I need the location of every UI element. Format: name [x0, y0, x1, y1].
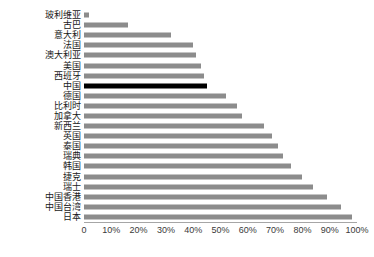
bar-row: 英国: [84, 131, 357, 141]
category-label: 瑞士: [63, 182, 81, 191]
bar-row: 瑞典: [84, 151, 357, 161]
category-label: 西班牙: [54, 71, 81, 80]
bar-row: 日本: [84, 212, 357, 222]
bar-row: 玻利维亚: [84, 10, 357, 20]
bar: [84, 103, 237, 108]
category-label: 瑞典: [63, 152, 81, 161]
bar: [84, 113, 242, 118]
bar-row: 瑞士: [84, 182, 357, 192]
bar-row: 捷克: [84, 172, 357, 182]
bar: [84, 13, 89, 18]
bar-row: 德国: [84, 91, 357, 101]
bar: [84, 33, 171, 38]
bar: [84, 154, 283, 159]
x-tick-label: 80%: [293, 224, 311, 236]
bar: [84, 174, 302, 179]
plot-area: 玻利维亚古巴意大利法国澳大利亚美国西班牙中国德国比利时加拿大新西兰英国泰国瑞典韩…: [84, 10, 357, 222]
x-tick-label: 20%: [130, 224, 148, 236]
category-label: 中国香港: [45, 192, 81, 201]
bar: [84, 73, 204, 78]
category-label: 日本: [63, 212, 81, 221]
category-label: 韩国: [63, 162, 81, 171]
x-tick-label: 60%: [239, 224, 257, 236]
bar-row: 意大利: [84, 30, 357, 40]
bar: [84, 83, 207, 88]
bar-row: 中国香港: [84, 192, 357, 202]
category-label: 法国: [63, 41, 81, 50]
x-axis-line: [84, 222, 357, 223]
category-label: 比利时: [54, 101, 81, 110]
category-label: 玻利维亚: [45, 11, 81, 20]
category-label: 意大利: [54, 31, 81, 40]
bar-row: 美国: [84, 60, 357, 70]
category-label: 美国: [63, 61, 81, 70]
bar-row: 加拿大: [84, 111, 357, 121]
category-label: 捷克: [63, 172, 81, 181]
x-tick-label: 90%: [321, 224, 339, 236]
bar-row: 古巴: [84, 20, 357, 30]
bar-row: 中国: [84, 81, 357, 91]
bar-row: 西班牙: [84, 71, 357, 81]
bar-row: 泰国: [84, 141, 357, 151]
bar: [84, 134, 272, 139]
bar: [84, 124, 264, 129]
bar-chart: 玻利维亚古巴意大利法国澳大利亚美国西班牙中国德国比利时加拿大新西兰英国泰国瑞典韩…: [0, 0, 374, 257]
bar: [84, 204, 341, 209]
x-tick-label: 100%: [345, 224, 368, 236]
bar-row: 法国: [84, 40, 357, 50]
bar-row: 新西兰: [84, 121, 357, 131]
bar: [84, 214, 352, 219]
category-label: 英国: [63, 132, 81, 141]
bar-row: 韩国: [84, 161, 357, 171]
category-label: 中国: [63, 81, 81, 90]
x-axis-tick-labels: 010%20%30%40%50%60%70%80%90%100%: [0, 224, 374, 240]
category-label: 加拿大: [54, 111, 81, 120]
bar-row: 澳大利亚: [84, 50, 357, 60]
x-tick-label: 50%: [211, 224, 229, 236]
bar: [84, 164, 291, 169]
bar: [84, 23, 128, 28]
category-label: 中国台湾: [45, 202, 81, 211]
bar-row: 比利时: [84, 101, 357, 111]
category-label: 德国: [63, 91, 81, 100]
x-tick-label: 0: [81, 224, 86, 236]
x-tick-label: 70%: [266, 224, 284, 236]
bar: [84, 194, 327, 199]
bar: [84, 53, 196, 58]
bar: [84, 184, 313, 189]
bar-row: 中国台湾: [84, 202, 357, 212]
bar: [84, 43, 193, 48]
bar: [84, 93, 226, 98]
bar: [84, 144, 278, 149]
bar: [84, 63, 201, 68]
category-label: 古巴: [63, 21, 81, 30]
category-label: 新西兰: [54, 122, 81, 131]
x-tick-label: 40%: [184, 224, 202, 236]
x-tick-label: 30%: [157, 224, 175, 236]
category-label: 泰国: [63, 142, 81, 151]
category-label: 澳大利亚: [45, 51, 81, 60]
x-tick-label: 10%: [102, 224, 120, 236]
